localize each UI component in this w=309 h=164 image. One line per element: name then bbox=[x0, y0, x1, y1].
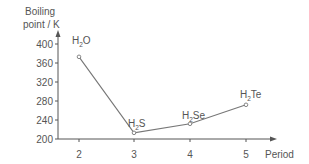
x-tick-label: 4 bbox=[187, 149, 193, 160]
y-axis-label-line2: point / K bbox=[23, 19, 60, 30]
y-tick-label: 280 bbox=[36, 96, 53, 107]
y-tick-label: 400 bbox=[36, 39, 53, 50]
x-tick-label: 5 bbox=[243, 149, 249, 160]
x-axis-arrow-icon bbox=[270, 137, 277, 142]
data-point-label: H2O bbox=[72, 35, 91, 48]
y-tick-label: 360 bbox=[36, 58, 53, 69]
y-tick-label: 320 bbox=[36, 77, 53, 88]
data-point-marker bbox=[244, 103, 248, 107]
data-point-label: H2Se bbox=[182, 110, 206, 123]
y-tick-label: 240 bbox=[36, 115, 53, 126]
x-ticks: 2345 bbox=[76, 139, 249, 160]
boiling-point-chart: Boiling point / K 200240280320360400 234… bbox=[0, 0, 309, 164]
x-tick-label: 3 bbox=[131, 149, 137, 160]
data-point-marker bbox=[132, 131, 136, 135]
y-ticks: 200240280320360400 bbox=[36, 39, 58, 145]
series-line bbox=[79, 57, 246, 133]
axes bbox=[56, 30, 278, 142]
data-series: H2OH2SH2SeH2Te bbox=[72, 35, 262, 135]
y-axis-label-line1: Boiling bbox=[25, 6, 55, 17]
x-tick-label: 2 bbox=[76, 149, 82, 160]
y-axis-arrow-icon bbox=[56, 30, 61, 37]
y-tick-label: 200 bbox=[36, 134, 53, 145]
x-axis-label: Period bbox=[265, 149, 294, 160]
data-point-marker bbox=[77, 55, 81, 59]
data-point-label: H2Te bbox=[240, 89, 262, 102]
